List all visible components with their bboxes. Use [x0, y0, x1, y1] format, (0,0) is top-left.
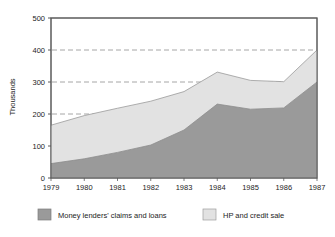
legend-swatch-hp-and-credit-sale [203, 209, 216, 220]
x-tick-label: 1985 [242, 183, 259, 192]
legend-label-hp-and-credit-sale: HP and credit sale [223, 211, 284, 220]
x-tick-label: 1981 [109, 183, 126, 192]
y-tick-label: 500 [32, 14, 45, 23]
x-tick-label: 1983 [176, 183, 193, 192]
x-tick-label: 1986 [275, 183, 292, 192]
stacked-area-chart: Thousands 0100200300400500 1979198019811… [0, 0, 335, 237]
legend-label-money-lenders: Money lenders' claims and loans [58, 211, 167, 220]
legend-swatch-money-lenders [38, 209, 51, 220]
x-tick-label: 1984 [209, 183, 226, 192]
y-tick-label: 200 [32, 110, 45, 119]
x-tick-label: 1979 [43, 183, 60, 192]
y-tick-label: 0 [41, 174, 45, 183]
y-tick-label: 400 [32, 46, 45, 55]
y-axis-title: Thousands [8, 78, 17, 115]
y-tick-label: 100 [32, 142, 45, 151]
x-tick-label: 1980 [76, 183, 93, 192]
y-tick-label: 300 [32, 78, 45, 87]
chart-container: Thousands 0100200300400500 1979198019811… [0, 0, 335, 237]
x-tick-label: 1982 [142, 183, 159, 192]
x-tick-label: 1987 [309, 183, 326, 192]
chart-legend: Money lenders' claims and loans HP and c… [38, 209, 284, 220]
